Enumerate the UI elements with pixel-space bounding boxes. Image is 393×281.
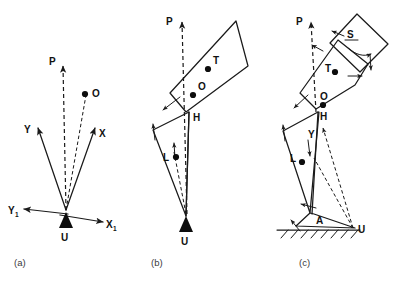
panel-c-label-p: P	[296, 16, 303, 27]
panel-a-label-p: P	[49, 56, 56, 67]
panel-c-com-dot-l	[299, 159, 305, 165]
panel-c-label-u: U	[358, 224, 365, 235]
panel-b-com-dot-l	[173, 154, 179, 160]
panel-a-label-y: Y	[24, 124, 31, 135]
svg-text:1: 1	[113, 225, 117, 232]
panel-b-com-dot-o	[190, 92, 196, 98]
panel-c-segment-head	[330, 14, 388, 72]
panel-c-y-velocity-arrow	[308, 140, 310, 156]
panel-b-label-l: L	[163, 152, 169, 163]
panel-a-label-o: O	[92, 88, 100, 99]
panel-a-com-dot-o	[82, 91, 88, 97]
panel-c-axis-p	[311, 22, 316, 112]
panel-b-thigh-edge-hu	[186, 112, 189, 216]
panel-a-axis-p	[63, 66, 66, 210]
panel-b-label-o: O	[198, 81, 206, 92]
panel-b-line-to-l	[174, 152, 186, 214]
panel-c-ground-hatching	[281, 230, 358, 238]
panel-b-caption: (b)	[151, 257, 163, 268]
panel-c-label-y: Y	[308, 129, 315, 140]
panel-c-label-a: A	[316, 215, 323, 226]
diagram-canvas: P O X Y X 1 Y 1 U (a)	[0, 0, 393, 281]
panel-a-axis-x	[66, 128, 95, 210]
panel-c-label-s: S	[347, 29, 354, 40]
panel-a-line-to-o	[66, 95, 86, 210]
panel-b-support-triangle-u	[179, 216, 193, 232]
panel-a-caption: (a)	[14, 257, 26, 268]
panel-c: P S T O H Y L A U (c)	[277, 14, 388, 268]
panel-a-label-y1: Y 1	[8, 205, 19, 218]
panel-c-head-arrow-right	[370, 54, 371, 70]
panel-c-label-l: L	[290, 153, 296, 164]
panel-b-label-h: H	[193, 112, 200, 123]
panel-a-label-x: X	[99, 128, 106, 139]
panel-b: P T O H L U (b)	[151, 16, 248, 268]
panel-a-support-triangle-u	[59, 212, 73, 228]
panel-c-head-rotation-arrow	[348, 48, 371, 55]
panel-a-label-x1: X 1	[106, 219, 117, 232]
panel-a-axis-y	[38, 128, 66, 210]
panel-c-label-t: T	[325, 63, 331, 74]
panel-a-label-u: U	[61, 232, 68, 243]
panel-a-axis-y1	[24, 209, 68, 214]
panel-c-trunk-rotation-arrow	[294, 95, 308, 108]
panel-c-dashed-to-hip	[323, 128, 353, 228]
panel-b-label-p: P	[166, 16, 173, 27]
svg-text:1: 1	[15, 211, 19, 218]
panel-c-label-h: H	[320, 111, 327, 122]
panel-b-com-dot-t	[205, 66, 211, 72]
panel-c-caption: (c)	[299, 257, 310, 268]
panel-c-neck-arrow-lower	[312, 45, 323, 51]
panel-b-label-t: T	[213, 55, 219, 66]
panel-a: P O X Y X 1 Y 1 U (a)	[8, 56, 117, 268]
figure-container: P O X Y X 1 Y 1 U (a)	[0, 0, 393, 281]
svg-text:X: X	[106, 219, 113, 230]
panel-c-label-o: O	[320, 91, 328, 102]
panel-c-com-dot-o	[320, 102, 326, 108]
panel-b-label-u: U	[181, 236, 188, 247]
panel-b-axis-p	[182, 22, 187, 214]
panel-b-trunk-rotation-arrow	[163, 97, 180, 110]
svg-text:Y: Y	[8, 205, 15, 216]
panel-c-com-dot-t	[332, 69, 338, 75]
